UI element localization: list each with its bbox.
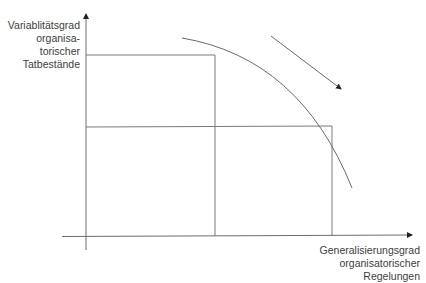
boundary-curve: [182, 38, 352, 188]
y-axis-label-line-4: Tatbestände: [8, 58, 80, 71]
x-axis-label-line-2: organisatorischer: [320, 257, 420, 270]
x-axis-label-line-3: Regelungen: [320, 270, 420, 283]
rectangle-high-generalization: [86, 126, 332, 236]
y-axis-label-line-2: organisa-: [8, 32, 80, 45]
y-axis-label: Variablitätsgrad organisa- torischer Tat…: [8, 19, 80, 71]
y-axis-label-line-3: torischer: [8, 45, 80, 58]
rectangle-high-variability: [86, 55, 215, 236]
y-axis-label-line-1: Variablitätsgrad: [8, 19, 80, 32]
x-axis-label-line-1: Generalisierungsgrad: [320, 244, 420, 257]
x-axis: [62, 235, 412, 237]
direction-arrow: [271, 36, 341, 89]
x-axis-label: Generalisierungsgrad organisatorischer R…: [320, 244, 420, 283]
